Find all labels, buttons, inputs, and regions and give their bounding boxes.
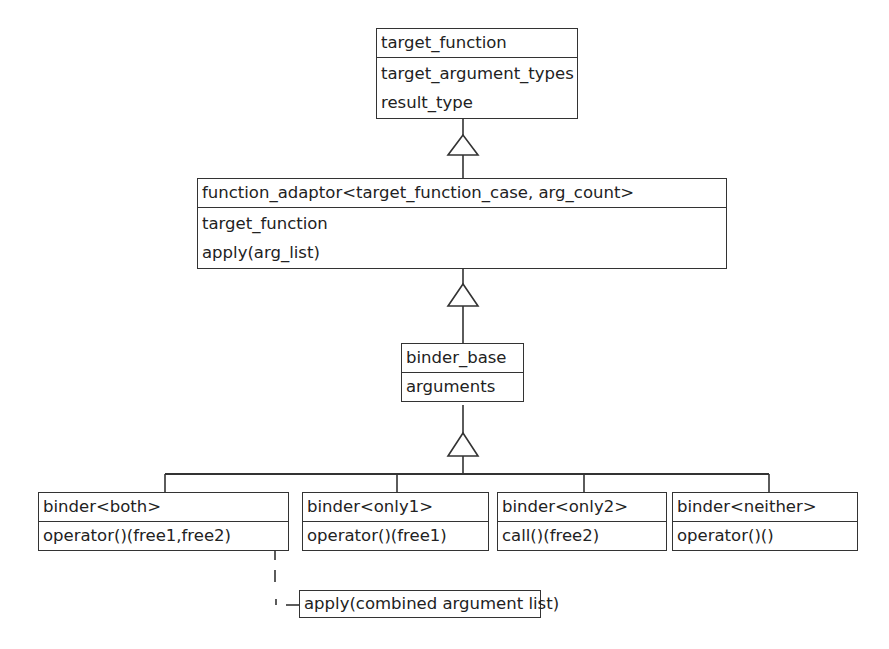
class-binder-base: binder_base arguments <box>401 343 524 402</box>
note-text: apply(combined argument list) <box>300 591 540 617</box>
class-name: target_function <box>377 29 577 57</box>
member: target_function <box>202 209 722 238</box>
class-members: call()(free2) <box>498 521 666 550</box>
class-target-function: target_function target_argument_types re… <box>376 28 578 119</box>
class-members: operator()(free1,free2) <box>39 521 288 550</box>
class-name: binder<neither> <box>673 493 857 521</box>
member: call()(free2) <box>502 522 662 550</box>
class-members: target_function apply(arg_list) <box>198 207 726 268</box>
note-apply: apply(combined argument list) <box>299 590 541 618</box>
member: apply(arg_list) <box>202 238 722 267</box>
generalization-arrow-icon <box>448 135 478 155</box>
class-name: binder<both> <box>39 493 288 521</box>
class-members: operator()() <box>673 521 857 550</box>
class-binder-only1: binder<only1> operator()(free1) <box>302 492 489 551</box>
class-members: arguments <box>402 372 523 401</box>
member: operator()(free1,free2) <box>43 522 284 550</box>
member: target_argument_types <box>381 59 573 88</box>
member: arguments <box>406 373 519 401</box>
member: result_type <box>381 88 573 117</box>
class-function-adaptor: function_adaptor<target_function_case, a… <box>197 178 727 269</box>
class-name: binder<only2> <box>498 493 666 521</box>
class-name: function_adaptor<target_function_case, a… <box>198 179 726 207</box>
class-binder-only2: binder<only2> call()(free2) <box>497 492 667 551</box>
class-members: operator()(free1) <box>303 521 488 550</box>
class-members: target_argument_types result_type <box>377 57 577 118</box>
class-name: binder<only1> <box>303 493 488 521</box>
member: operator()() <box>677 522 853 550</box>
class-binder-neither: binder<neither> operator()() <box>672 492 858 551</box>
class-name: binder_base <box>402 344 523 372</box>
member: operator()(free1) <box>307 522 484 550</box>
class-binder-both: binder<both> operator()(free1,free2) <box>38 492 289 551</box>
